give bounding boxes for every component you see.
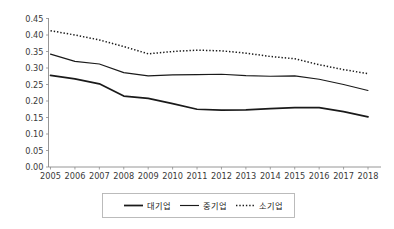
y-tick-label: 0.30 (25, 63, 43, 73)
x-tick-label: 2011 (187, 171, 208, 181)
x-tick-label: 2005 (40, 171, 61, 181)
x-tick-label: 2013 (235, 171, 256, 181)
y-tick-label: 0.05 (25, 146, 43, 156)
x-tick-label: 2010 (162, 171, 183, 181)
y-tick-label: 0.35 (25, 47, 43, 57)
x-tick-label: 2006 (65, 171, 86, 181)
x-tick-label: 2009 (138, 171, 159, 181)
y-tick-label: 0.40 (25, 30, 43, 40)
y-tick-label: 0.10 (25, 129, 43, 139)
y-tick-label: 0.20 (25, 96, 43, 106)
x-tick-label: 2012 (211, 171, 232, 181)
legend-label-small-enterprise: 소기업 (259, 201, 283, 211)
x-tick-label: 2016 (309, 171, 330, 181)
x-tick-label: 2017 (333, 171, 354, 181)
y-tick-label: 0.25 (25, 80, 43, 90)
x-tick-label: 2007 (89, 171, 110, 181)
line-chart: 0.000.050.100.150.200.250.300.350.400.45… (0, 0, 394, 229)
legend-label-medium-enterprise: 중기업 (203, 201, 227, 211)
x-tick-label: 2014 (260, 171, 281, 181)
y-tick-label: 0.45 (25, 14, 43, 24)
x-tick-label: 2008 (113, 171, 134, 181)
x-tick-label: 2018 (358, 171, 379, 181)
legend: 대기업 중기업 소기업 (103, 194, 295, 218)
y-tick-label: 0.15 (25, 113, 43, 123)
x-tick-label: 2015 (284, 171, 305, 181)
legend-label-large-enterprise: 대기업 (147, 201, 171, 211)
